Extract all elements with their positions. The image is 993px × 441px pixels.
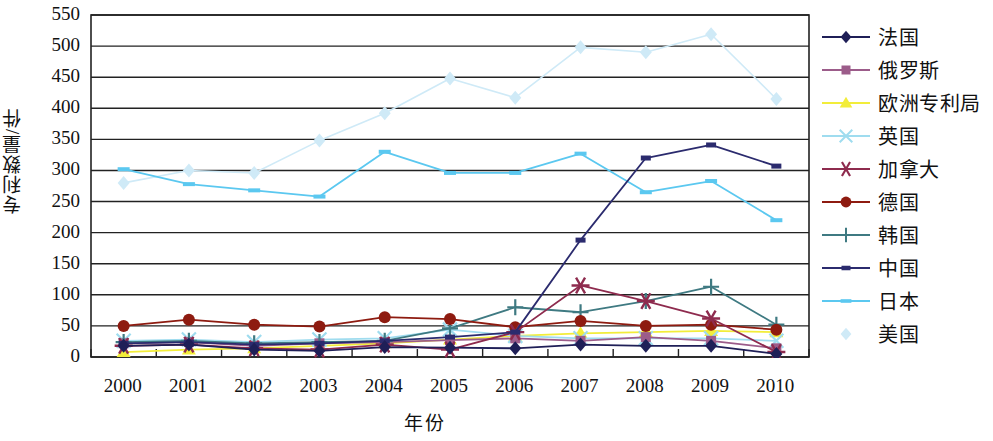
x-tick-label: 2006 xyxy=(495,375,533,397)
gridlines xyxy=(91,15,809,357)
legend-item-中国[interactable]: 中国 xyxy=(820,251,990,284)
y-tick-label: 450 xyxy=(28,65,80,87)
y-tick-label: 0 xyxy=(28,345,80,367)
legend-label: 韩国 xyxy=(872,220,919,249)
legend-item-加拿大[interactable]: 加拿大 xyxy=(820,152,990,185)
y-tick-label: 100 xyxy=(28,283,80,305)
legend-marker-triangle-icon xyxy=(820,93,872,113)
y-tick-label: 50 xyxy=(28,314,80,336)
legend-item-英国[interactable]: 英国 xyxy=(820,119,990,152)
legend-label: 加拿大 xyxy=(872,154,940,183)
x-tick-label: 2005 xyxy=(430,375,468,397)
legend-marker-diamond-light-icon xyxy=(820,324,872,344)
y-tick-label: 250 xyxy=(28,190,80,212)
legend-marker-x-icon xyxy=(820,126,872,146)
chart-legend: 法国俄罗斯欧洲专利局英国加拿大德国韩国中国日本美国 xyxy=(820,20,990,350)
patent-line-chart: 专利数量/件 050100150200250300350400450500550… xyxy=(0,0,993,441)
x-tick-label: 2001 xyxy=(169,375,207,397)
series-日本 xyxy=(118,150,783,222)
x-tick-label: 2003 xyxy=(299,375,337,397)
legend-marker-asterisk-icon xyxy=(820,159,872,179)
y-tick-label: 550 xyxy=(28,3,80,25)
legend-marker-square-icon xyxy=(820,60,872,80)
legend-label: 美国 xyxy=(872,319,919,348)
legend-label: 俄罗斯 xyxy=(872,55,940,84)
legend-label: 日本 xyxy=(872,286,919,315)
legend-label: 英国 xyxy=(872,121,919,150)
y-tick-label: 300 xyxy=(28,158,80,180)
x-axis-title: 年份 xyxy=(404,408,446,435)
x-tick-label: 2004 xyxy=(365,375,403,397)
x-tick-label: 2010 xyxy=(756,375,794,397)
legend-marker-line-icon xyxy=(820,291,872,311)
legend-item-法国[interactable]: 法国 xyxy=(820,20,990,53)
legend-label: 德国 xyxy=(872,187,919,216)
legend-label: 欧洲专利局 xyxy=(872,88,981,117)
y-tick-label: 350 xyxy=(28,127,80,149)
legend-marker-dash-icon xyxy=(820,258,872,278)
x-tick-label: 2008 xyxy=(626,375,664,397)
plot-area xyxy=(90,14,808,356)
plot-frame xyxy=(91,15,809,357)
y-axis-ticks: 050100150200250300350400450500550 xyxy=(28,0,80,441)
y-tick-label: 150 xyxy=(28,252,80,274)
x-tick-label: 2000 xyxy=(104,375,142,397)
legend-marker-plus-icon xyxy=(820,225,872,245)
chart-canvas xyxy=(90,14,810,358)
legend-item-日本[interactable]: 日本 xyxy=(820,284,990,317)
legend-marker-circle-icon xyxy=(820,192,872,212)
y-tick-label: 500 xyxy=(28,34,80,56)
x-tick-label: 2007 xyxy=(561,375,599,397)
y-tick-label: 400 xyxy=(28,96,80,118)
y-axis-title: 专利数量/件 xyxy=(2,108,24,214)
legend-item-俄罗斯[interactable]: 俄罗斯 xyxy=(820,53,990,86)
legend-item-德国[interactable]: 德国 xyxy=(820,185,990,218)
legend-label: 法国 xyxy=(872,22,919,51)
legend-label: 中国 xyxy=(872,253,919,282)
legend-item-欧洲专利局[interactable]: 欧洲专利局 xyxy=(820,86,990,119)
legend-item-韩国[interactable]: 韩国 xyxy=(820,218,990,251)
legend-marker-diamond-icon xyxy=(820,27,872,47)
y-tick-label: 200 xyxy=(28,221,80,243)
x-tick-label: 2009 xyxy=(691,375,729,397)
x-tick-label: 2002 xyxy=(234,375,272,397)
legend-item-美国[interactable]: 美国 xyxy=(820,317,990,350)
